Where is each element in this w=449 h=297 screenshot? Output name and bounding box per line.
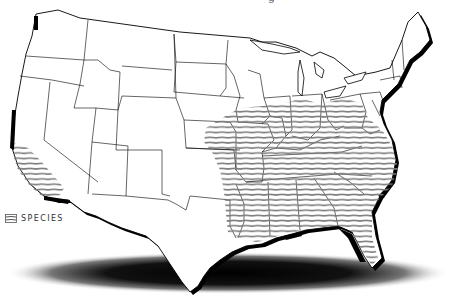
legend-label-species: SPECIES (21, 214, 64, 223)
hatch-swatch-icon (5, 214, 17, 223)
map-title-fragment: g (268, 0, 275, 4)
us-range-map (0, 0, 449, 297)
legend: SPECIES (5, 214, 64, 223)
